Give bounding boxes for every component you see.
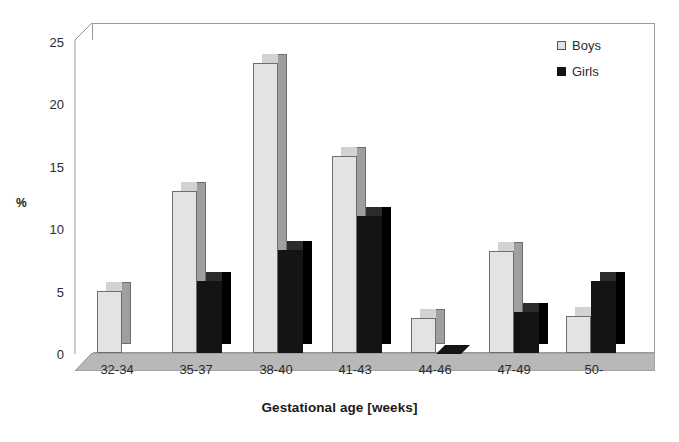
bar-girls-35-37 xyxy=(197,23,231,353)
x-tick-label-47-49: 47-49 xyxy=(475,362,553,377)
bar-boys-44-46 xyxy=(411,23,445,353)
bar-boys-32-34 xyxy=(97,23,131,353)
dark-square-swatch-icon xyxy=(557,67,566,76)
x-tick-label-41-43: 41-43 xyxy=(316,362,394,377)
x-tick-label-50-plus: 50- xyxy=(555,362,633,377)
bar-chart: 25 20 15 10 5 0 % Boys Girls xyxy=(0,0,679,442)
y-tick-label: 10 xyxy=(30,223,64,236)
x-tick-label-32-34: 32-34 xyxy=(78,362,156,377)
bar-girls-47-49 xyxy=(514,23,548,353)
y-tick-label: 5 xyxy=(30,286,64,299)
x-tick-label-35-37: 35-37 xyxy=(157,362,235,377)
y-tick-label: 0 xyxy=(30,348,64,361)
x-tick-label-38-40: 38-40 xyxy=(237,362,315,377)
y-axis-title: % xyxy=(16,196,27,210)
bar-girls-41-43 xyxy=(357,23,391,353)
plot-depth-edges xyxy=(74,22,94,355)
bar-girls-50-plus xyxy=(591,23,625,353)
x-axis-title: Gestational age [weeks] xyxy=(0,400,679,415)
light-square-swatch-icon xyxy=(557,41,566,50)
y-tick-label: 15 xyxy=(30,161,64,174)
y-tick-label: 25 xyxy=(30,36,64,49)
bar-girls-38-40 xyxy=(278,23,312,353)
y-tick-label: 20 xyxy=(30,98,64,111)
bar-girls-44-46 xyxy=(436,341,472,355)
x-tick-label-44-46: 44-46 xyxy=(396,362,474,377)
